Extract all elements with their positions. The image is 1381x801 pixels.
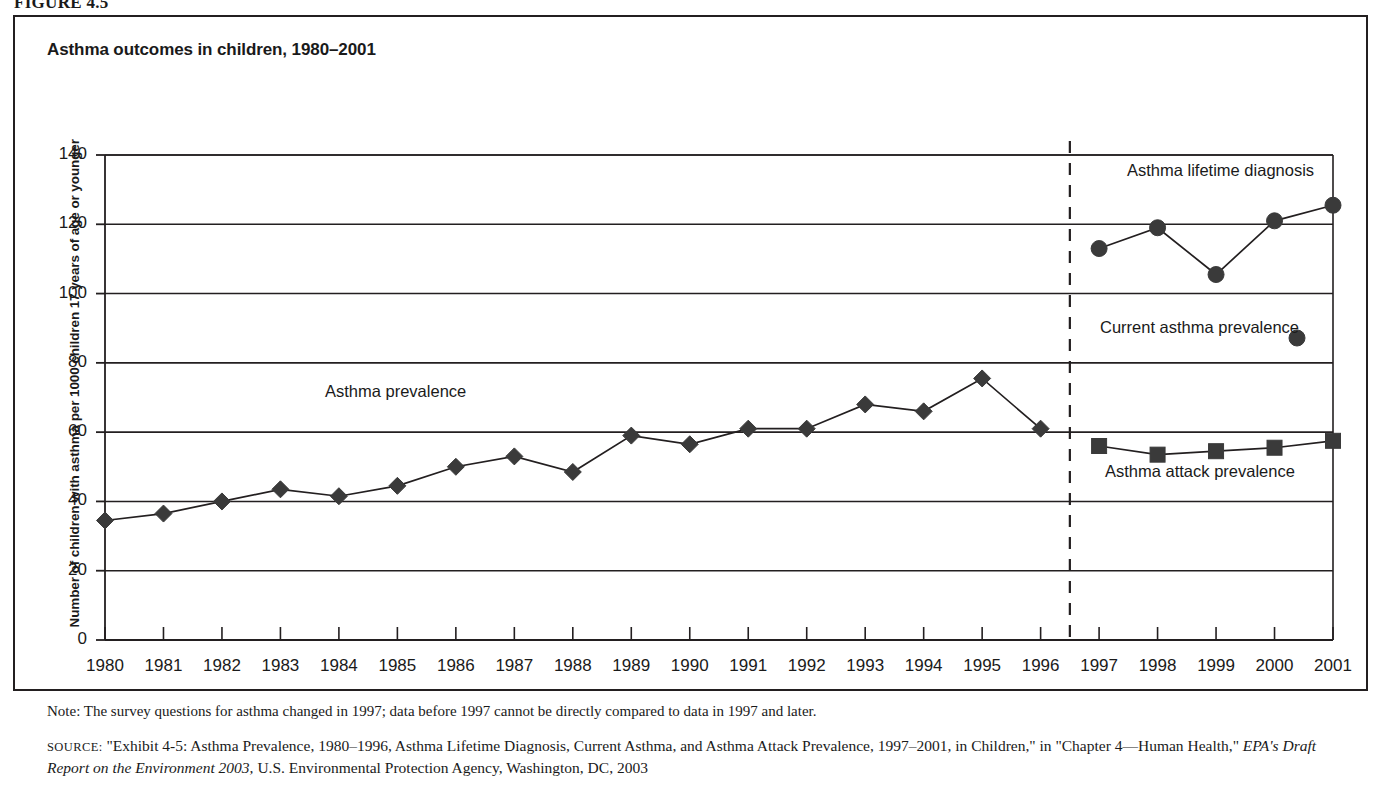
source-part1: "Exhibit 4-5: Asthma Prevalence, 1980–19… bbox=[103, 737, 1243, 754]
annotation-asthma-prevalence: Asthma prevalence bbox=[325, 382, 466, 401]
y-tick-label: 20 bbox=[47, 560, 87, 580]
x-tick-label: 2001 bbox=[1303, 656, 1363, 676]
x-tick-label: 1989 bbox=[601, 656, 661, 676]
y-tick-label: 60 bbox=[47, 421, 87, 441]
annotation-attack-prevalence: Asthma attack prevalence bbox=[1105, 462, 1295, 481]
source-prefix: SOURCE: bbox=[47, 740, 103, 754]
gridlines bbox=[105, 155, 1333, 571]
x-tick-label: 1998 bbox=[1128, 656, 1188, 676]
chart-plot bbox=[0, 0, 1381, 801]
source-part2: U.S. Environmental Protection Agency, Wa… bbox=[254, 759, 648, 776]
annotation-lifetime-diagnosis: Asthma lifetime diagnosis bbox=[1127, 161, 1314, 180]
x-axis-ticks bbox=[105, 627, 1333, 640]
x-tick-label: 1992 bbox=[777, 656, 837, 676]
y-axis-ticks bbox=[96, 155, 105, 640]
y-tick-label: 0 bbox=[47, 629, 87, 649]
y-tick-label: 100 bbox=[47, 283, 87, 303]
x-tick-label: 1982 bbox=[192, 656, 252, 676]
x-tick-label: 1994 bbox=[894, 656, 954, 676]
x-tick-label: 1996 bbox=[1011, 656, 1071, 676]
x-tick-label: 1991 bbox=[718, 656, 778, 676]
x-tick-label: 1988 bbox=[543, 656, 603, 676]
chart-source: SOURCE: "Exhibit 4-5: Asthma Prevalence,… bbox=[47, 735, 1347, 780]
annotation-current-prevalence: Current asthma prevalence bbox=[1100, 318, 1299, 337]
x-tick-label: 1984 bbox=[309, 656, 369, 676]
axis-lines bbox=[105, 155, 1333, 640]
x-tick-label: 2000 bbox=[1245, 656, 1305, 676]
y-tick-label: 140 bbox=[47, 144, 87, 164]
y-tick-label: 40 bbox=[47, 490, 87, 510]
x-tick-label: 1980 bbox=[75, 656, 135, 676]
x-tick-label: 1985 bbox=[367, 656, 427, 676]
x-tick-label: 1986 bbox=[426, 656, 486, 676]
x-tick-label: 1990 bbox=[660, 656, 720, 676]
y-tick-label: 120 bbox=[47, 213, 87, 233]
x-tick-label: 1983 bbox=[250, 656, 310, 676]
x-tick-label: 1997 bbox=[1069, 656, 1129, 676]
x-tick-label: 1999 bbox=[1186, 656, 1246, 676]
y-tick-label: 80 bbox=[47, 352, 87, 372]
x-tick-label: 1987 bbox=[484, 656, 544, 676]
x-tick-label: 1995 bbox=[952, 656, 1012, 676]
chart-note: Note: The survey questions for asthma ch… bbox=[47, 703, 817, 720]
x-tick-label: 1981 bbox=[133, 656, 193, 676]
x-tick-label: 1993 bbox=[835, 656, 895, 676]
